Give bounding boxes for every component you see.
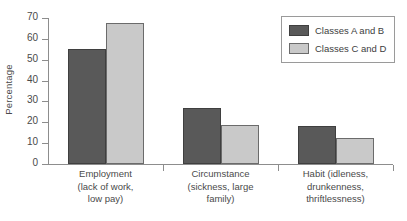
category-label-line: Employment [48,168,163,181]
y-axis-tick: 0 [42,164,48,165]
category-label-line: Circumstance [163,168,278,181]
legend-item[interactable]: Classes C and D [289,41,386,56]
legend-item-label: Classes C and D [315,43,386,54]
y-axis-title: Percentage [0,14,16,164]
light-gray-swatch-icon [289,43,309,54]
x-axis-category-label: Habit (idleness,drunkenness,thriftlessne… [278,168,393,206]
y-axis-tick-label: 50 [27,53,38,64]
y-axis-tick-label: 60 [27,32,38,43]
y-axis-tick-label: 20 [27,115,38,126]
y-axis-title-text: Percentage [3,64,14,115]
x-axis-category-label: Employment(lack of work,low pay) [48,168,163,206]
bar[interactable] [106,23,144,164]
y-axis-tick-label: 70 [27,11,38,22]
bar-group [68,18,144,164]
y-axis-tick: 40 [42,81,48,82]
category-label-line: (lack of work, [48,181,163,194]
y-axis-line [48,18,49,164]
chart-legend: Classes A and B Classes C and D [281,16,395,63]
y-axis-tick: 10 [42,143,48,144]
legend-item-label: Classes A and B [315,25,384,36]
y-axis-tick: 60 [42,39,48,40]
y-axis-tick-label: 10 [27,136,38,147]
dark-gray-swatch-icon [289,25,309,36]
y-axis-tick: 30 [42,101,48,102]
x-axis-category-label: Circumstance(sickness, largefamily) [163,168,278,206]
bar-chart-figure: Percentage 706050403020100 Employment(la… [0,0,407,221]
y-axis-tick-label: 30 [27,94,38,105]
x-axis-tick [393,165,394,171]
bar[interactable] [336,138,374,164]
y-axis-tick: 20 [42,122,48,123]
bar[interactable] [221,125,259,164]
bar[interactable] [298,126,336,164]
category-label-line: family) [163,193,278,206]
y-axis-tick-label: 40 [27,74,38,85]
category-label-line: Habit (idleness, [278,168,393,181]
x-axis-line [48,164,393,165]
legend-item[interactable]: Classes A and B [289,23,386,38]
bar[interactable] [183,108,221,164]
category-label-line: (sickness, large [163,181,278,194]
bar[interactable] [68,49,106,164]
bar-group [183,18,259,164]
y-axis-tick: 50 [42,60,48,61]
y-axis-tick: 70 [42,18,48,19]
category-label-line: thriftlessness) [278,193,393,206]
category-label-line: low pay) [48,193,163,206]
y-axis-tick-label: 0 [32,157,38,168]
category-label-line: drunkenness, [278,181,393,194]
